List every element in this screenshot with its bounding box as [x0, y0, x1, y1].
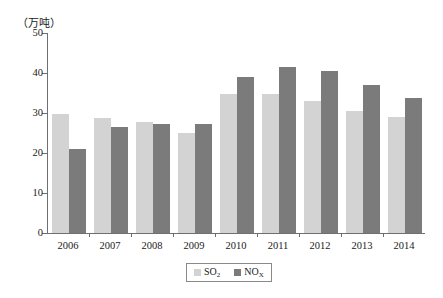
bar-group [94, 33, 128, 233]
bar-group [136, 33, 170, 233]
bar-group [388, 33, 422, 233]
legend-label: SO2 [204, 266, 220, 279]
bar-so2-2011 [262, 94, 279, 233]
x-axis-tick-mark [173, 233, 174, 237]
x-axis-tick-mark [131, 233, 132, 237]
plot-area: 01020304050 [47, 33, 425, 233]
x-axis-label-2013: 2013 [340, 239, 384, 253]
y-axis-tick-label: 0 [38, 226, 43, 239]
x-axis-label-2007: 2007 [88, 239, 132, 253]
bar-nox-2008 [153, 124, 170, 233]
legend-item-nox[interactable]: NOX [234, 266, 264, 279]
bar-nox-2014 [405, 98, 422, 233]
bar-nox-2012 [321, 71, 338, 233]
y-axis-tick-label: 10 [33, 186, 44, 199]
bar-so2-2008 [136, 122, 153, 233]
chart-legend: SO2NOX [186, 263, 272, 282]
x-axis-label-2008: 2008 [130, 239, 174, 253]
bar-group [52, 33, 86, 233]
legend-swatch-icon [234, 269, 241, 276]
bar-nox-2011 [279, 67, 296, 233]
bar-nox-2010 [237, 77, 254, 233]
x-axis-line [47, 233, 425, 234]
x-axis-tick-mark [383, 233, 384, 237]
y-axis-tick-label: 50 [33, 26, 44, 39]
bar-so2-2009 [178, 133, 195, 233]
y-axis-tick-label: 40 [33, 66, 44, 79]
x-axis-tick-mark [257, 233, 258, 237]
bar-nox-2009 [195, 124, 212, 233]
x-axis-label-2006: 2006 [46, 239, 90, 253]
x-axis-label-2011: 2011 [256, 239, 300, 253]
bar-so2-2012 [304, 101, 321, 233]
y-axis-tick-label: 20 [33, 146, 44, 159]
bar-so2-2014 [388, 117, 405, 233]
bar-so2-2006 [52, 114, 69, 233]
bar-chart: （万吨） 01020304050 20062007200820092010201… [0, 0, 443, 298]
x-axis-label-2012: 2012 [298, 239, 342, 253]
bar-nox-2006 [69, 149, 86, 233]
bar-group [346, 33, 380, 233]
bar-so2-2010 [220, 94, 237, 233]
legend-swatch-icon [194, 269, 201, 276]
y-axis-tick-label: 30 [33, 106, 44, 119]
legend-label: NOX [244, 266, 264, 279]
bar-nox-2007 [111, 127, 128, 233]
x-axis-tick-mark [299, 233, 300, 237]
bar-group [178, 33, 212, 233]
bar-group [262, 33, 296, 233]
bar-so2-2007 [94, 118, 111, 233]
x-axis-label-2009: 2009 [172, 239, 216, 253]
bar-nox-2013 [363, 85, 380, 233]
bar-so2-2013 [346, 111, 363, 233]
bar-group [220, 33, 254, 233]
legend-item-so2[interactable]: SO2 [194, 266, 220, 279]
bar-group [304, 33, 338, 233]
x-axis-tick-mark [215, 233, 216, 237]
x-axis-label-2014: 2014 [382, 239, 426, 253]
x-axis-tick-mark [89, 233, 90, 237]
x-axis-label-2010: 2010 [214, 239, 258, 253]
x-axis-tick-mark [341, 233, 342, 237]
y-axis-line [47, 33, 48, 234]
